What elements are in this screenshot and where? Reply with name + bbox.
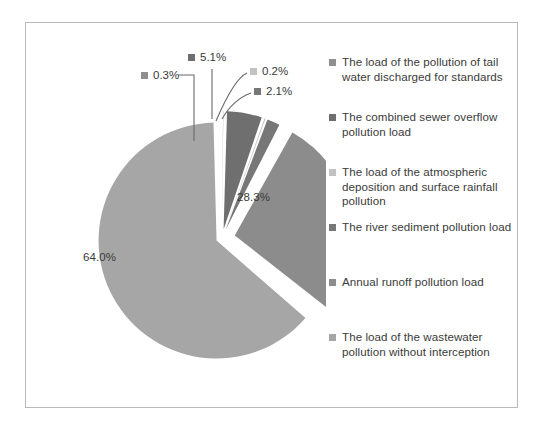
- legend-item-label: The load of the atmospheric deposition a…: [342, 165, 515, 209]
- pie-slice-percent-callout: 0.3%: [141, 69, 179, 81]
- legend-item[interactable]: The load of the pollution of tail water …: [329, 55, 515, 84]
- chart-legend: The load of the pollution of tail water …: [329, 45, 519, 405]
- legend-item[interactable]: The load of the atmospheric deposition a…: [329, 165, 515, 209]
- legend-item-label: The combined sewer overflow pollution lo…: [342, 110, 515, 139]
- legend-swatch-icon: [188, 54, 195, 61]
- pie-slice-percent-callout: 0.2%: [250, 65, 288, 77]
- pie-slice-percent-value: 28.3%: [237, 191, 270, 203]
- legend-swatch-icon: [141, 72, 148, 79]
- legend-swatch-icon: [250, 68, 257, 75]
- legend-swatch-icon: [329, 279, 336, 286]
- chart-frame: 0.3%5.1%0.2%2.1% 28.3%64.0% The load of …: [25, 22, 518, 408]
- pie-slice-percent-value: 64.0%: [83, 251, 116, 263]
- pie-slice-percent-value: 0.3%: [153, 69, 179, 81]
- pie-slice-percent-value: 5.1%: [200, 51, 226, 63]
- legend-item-label: The load of the pollution of tail water …: [342, 55, 515, 84]
- legend-swatch-icon: [329, 224, 336, 231]
- legend-item[interactable]: Annual runoff pollution load: [329, 275, 515, 290]
- pie-slice-percent-callout: 5.1%: [188, 51, 226, 63]
- legend-item[interactable]: The combined sewer overflow pollution lo…: [329, 110, 515, 139]
- pie-slice[interactable]: [222, 111, 223, 229]
- legend-swatch-icon: [254, 88, 261, 95]
- pie-slice-percent-value: 0.2%: [262, 65, 288, 77]
- legend-swatch-icon: [329, 114, 336, 121]
- pie-slices: [99, 111, 326, 359]
- legend-item[interactable]: The river sediment pollution load: [329, 220, 515, 235]
- legend-swatch-icon: [329, 169, 336, 176]
- legend-swatch-icon: [329, 334, 336, 341]
- pie-slice-percent-callout: 2.1%: [254, 85, 292, 97]
- legend-swatch-icon: [329, 59, 336, 66]
- legend-item-label: The river sediment pollution load: [342, 220, 511, 235]
- pie-chart-plot-area: 0.3%5.1%0.2%2.1% 28.3%64.0%: [26, 23, 326, 409]
- pie-slice-percent-value: 2.1%: [266, 85, 292, 97]
- legend-item-label: Annual runoff pollution load: [342, 275, 484, 290]
- legend-item[interactable]: The load of the wastewater pollution wit…: [329, 330, 515, 359]
- legend-item-label: The load of the wastewater pollution wit…: [342, 330, 515, 359]
